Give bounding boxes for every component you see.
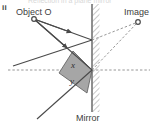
incident-ray-lower-arrow (34, 19, 66, 47)
mirror-hatch-band (93, 4, 100, 112)
image-label: Image (124, 8, 149, 17)
angle-shaded-region (59, 51, 92, 93)
angle-label-upper: x (70, 60, 75, 70)
incident-ray-upper-arrow (34, 19, 70, 32)
mirror-reflection-figure: x y Reflection in a plane mirror ii Obje… (0, 0, 158, 126)
angle-label-lower: y (69, 76, 74, 86)
cropped-header-text: Reflection in a plane mirror (28, 0, 112, 4)
object-label: Object O (16, 8, 52, 17)
ray-diagram-svg: x y (0, 0, 158, 126)
part-number-label: ii (2, 4, 7, 12)
mirror-caption-label: Mirror (76, 114, 100, 123)
image-point-marker (136, 20, 141, 25)
object-point-marker (32, 17, 37, 22)
